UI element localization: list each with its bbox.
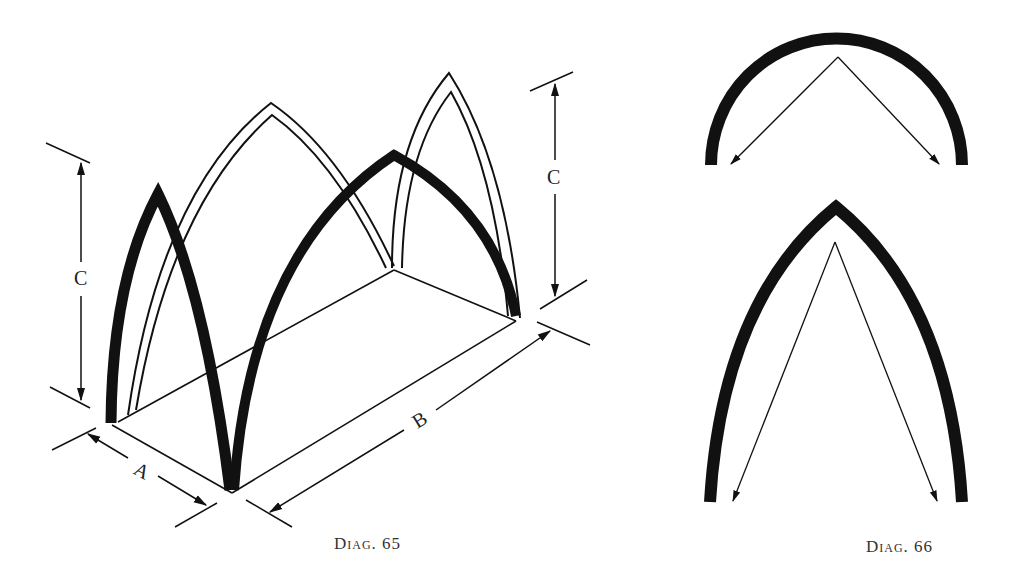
floor-outline: [112, 270, 516, 493]
label-a: A: [130, 457, 154, 483]
diag66-figure: [710, 38, 962, 502]
label-c-right: C: [547, 166, 560, 188]
front-left-rib: [111, 194, 230, 490]
side-wall-arch: [128, 103, 394, 415]
diagram-canvas: C C A B: [0, 0, 1018, 578]
dimension-c-right: [530, 72, 587, 309]
semicircular-thrust-arrows: [731, 57, 939, 164]
diag65-figure: [46, 72, 590, 527]
label-c-left: C: [74, 267, 87, 289]
pointed-arch: [710, 207, 962, 502]
front-right-rib: [234, 155, 516, 490]
caption-diag65: Diag. 65: [334, 534, 401, 554]
label-b: B: [408, 407, 431, 433]
caption-diag66: Diag. 66: [866, 537, 933, 557]
